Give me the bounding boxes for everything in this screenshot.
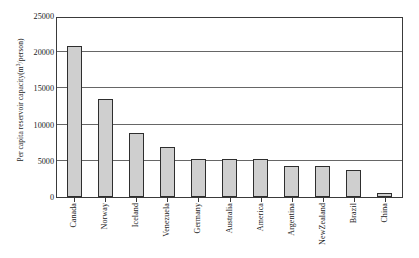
x-axis-tick-label: Australia — [226, 203, 234, 233]
bar-series — [57, 18, 402, 197]
bar-slot — [121, 18, 152, 197]
x-axis-tick-mark — [385, 198, 386, 202]
x-axis-tick-label: Canada — [70, 203, 78, 228]
label-slot: Canada — [58, 203, 89, 258]
x-axis-tick-label: Venezuela — [163, 203, 171, 237]
label-slot: America — [245, 203, 276, 258]
x-axis-tick-label: China — [381, 203, 389, 223]
tick-slot — [120, 198, 151, 202]
tick-slot — [339, 198, 370, 202]
tick-slot — [152, 198, 183, 202]
x-axis-tick-mark — [230, 198, 231, 202]
x-axis-tick-mark — [354, 198, 355, 202]
label-slot: NewZealand — [308, 203, 339, 258]
label-slot: Argentina — [276, 203, 307, 258]
tick-slot — [89, 198, 120, 202]
x-axis-tick-mark — [198, 198, 199, 202]
x-axis-tick-mark — [292, 198, 293, 202]
bar-slot — [152, 18, 183, 197]
label-slot: China — [370, 203, 401, 258]
label-slot: Norway — [89, 203, 120, 258]
x-axis-tick-marks — [56, 198, 403, 202]
x-axis-tick-label: Argentina — [288, 203, 296, 236]
bar[interactable] — [129, 133, 144, 197]
bar[interactable] — [284, 166, 299, 197]
bar-slot — [307, 18, 338, 197]
bar-slot — [245, 18, 276, 197]
x-axis-tick-mark — [323, 198, 324, 202]
bar-slot — [338, 18, 369, 197]
label-slot: Brazil — [339, 203, 370, 258]
label-slot: Australia — [214, 203, 245, 258]
y-axis-tick-label: 25000 — [10, 13, 54, 21]
x-axis-tick-label: Brazil — [350, 203, 358, 223]
bar[interactable] — [67, 46, 82, 197]
x-axis: CanadaNorwayIcelandVenezuelaGermanyAustr… — [56, 198, 403, 258]
bar-chart: Per capita reservoir capacity(m3/person)… — [0, 0, 419, 258]
x-axis-tick-labels: CanadaNorwayIcelandVenezuelaGermanyAustr… — [56, 203, 403, 258]
x-axis-tick-label: America — [257, 203, 265, 231]
bar[interactable] — [191, 159, 206, 197]
bar[interactable] — [160, 147, 175, 197]
bar-slot — [183, 18, 214, 197]
tick-slot — [370, 198, 401, 202]
tick-slot — [58, 198, 89, 202]
x-axis-tick-mark — [136, 198, 137, 202]
y-axis-tick-label: 0 — [10, 194, 54, 202]
bar[interactable] — [253, 159, 268, 197]
label-slot: Germany — [183, 203, 214, 258]
tick-slot — [276, 198, 307, 202]
bar-slot — [369, 18, 400, 197]
y-axis-tick-label: 15000 — [10, 85, 54, 93]
x-axis-tick-label: Norway — [101, 203, 109, 229]
bar[interactable] — [98, 99, 113, 197]
x-axis-tick-mark — [74, 198, 75, 202]
bar[interactable] — [346, 170, 361, 198]
x-axis-tick-label: Iceland — [132, 203, 140, 227]
bar-slot — [90, 18, 121, 197]
x-axis-tick-mark — [105, 198, 106, 202]
x-axis-tick-label: NewZealand — [319, 203, 327, 245]
bar[interactable] — [377, 193, 392, 197]
x-axis-tick-label: Germany — [194, 203, 202, 233]
y-axis-tick-label: 10000 — [10, 122, 54, 130]
label-slot: Iceland — [120, 203, 151, 258]
plot-area — [56, 17, 403, 198]
x-axis-tick-mark — [167, 198, 168, 202]
tick-slot — [308, 198, 339, 202]
y-axis-tick-labels: 0500010000150002000025000 — [8, 0, 54, 258]
tick-slot — [183, 198, 214, 202]
bar[interactable] — [222, 159, 237, 197]
bar[interactable] — [315, 166, 330, 197]
bar-slot — [214, 18, 245, 197]
tick-slot — [214, 198, 245, 202]
bar-slot — [59, 18, 90, 197]
y-axis-tick-label: 5000 — [10, 158, 54, 166]
x-axis-tick-mark — [261, 198, 262, 202]
y-axis-tick-label: 20000 — [10, 49, 54, 57]
bar-slot — [276, 18, 307, 197]
label-slot: Venezuela — [152, 203, 183, 258]
tick-slot — [245, 198, 276, 202]
